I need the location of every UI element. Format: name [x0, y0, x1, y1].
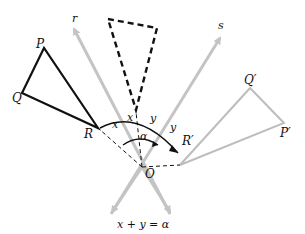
- label-o: O: [145, 167, 155, 181]
- label-y-top: y: [149, 112, 157, 125]
- equation-label: x + y = α: [117, 218, 170, 231]
- label-q-prime: Q′: [244, 73, 257, 87]
- label-p-prime: P′: [279, 126, 291, 140]
- label-alpha: α: [140, 130, 148, 143]
- line-s-tail-arrow: [112, 167, 142, 212]
- label-r-prime: R′: [181, 134, 194, 148]
- triangle-p-prime-q-prime-r-prime: [180, 88, 284, 165]
- reflection-rotation-diagram: r s P Q R x x y y α O R′ Q′ P′ x + y = α: [0, 0, 305, 234]
- label-x-top: x: [127, 111, 134, 124]
- label-q: Q: [12, 91, 22, 105]
- label-x-left: x: [112, 118, 119, 131]
- triangle-intermediate-dashed: [108, 19, 157, 110]
- label-r-point: R: [83, 127, 93, 141]
- label-r: r: [72, 12, 78, 25]
- label-s: s: [218, 19, 224, 32]
- label-y-right: y: [169, 121, 177, 134]
- arc-arrow-tip: [169, 145, 178, 153]
- label-p: P: [35, 37, 45, 51]
- triangle-pqr: [22, 48, 98, 128]
